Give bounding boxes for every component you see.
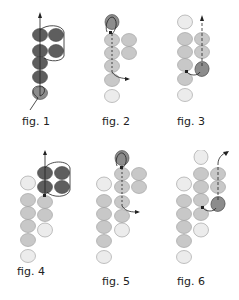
figure-label: fig. 6 — [177, 275, 205, 288]
figure-label: fig. 4 — [17, 265, 45, 278]
figure-4: fig. 4 — [0, 150, 79, 300]
figure-label: fig. 1 — [22, 115, 50, 128]
figure-label: fig. 3 — [177, 115, 205, 128]
figure-label: fig. 5 — [102, 275, 130, 288]
figure-6: fig. 6 — [160, 150, 239, 300]
figure-3: fig. 3 — [160, 0, 239, 150]
figure-1: fig. 1 — [0, 0, 79, 150]
figure-2: fig. 2 — [80, 0, 159, 150]
figure-label: fig. 2 — [102, 115, 130, 128]
figure-5: fig. 5 — [80, 150, 159, 300]
